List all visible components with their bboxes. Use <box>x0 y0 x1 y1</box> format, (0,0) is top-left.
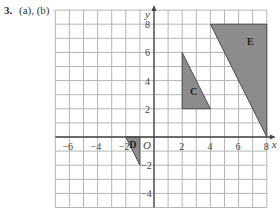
y-tick-label: 2 <box>145 104 150 115</box>
coordinate-grid: CED−6−4−224688642−2−4yxO <box>0 0 280 216</box>
x-tick-label: 8 <box>264 141 269 152</box>
y-axis-label: y <box>144 8 150 20</box>
shape-label: C <box>190 86 197 97</box>
x-tick-label: −4 <box>91 141 102 152</box>
x-tick-label: 2 <box>179 141 184 152</box>
y-tick-label: 4 <box>145 76 150 87</box>
x-tick-label: 4 <box>207 141 212 152</box>
y-tick-label: 6 <box>145 47 150 58</box>
x-tick-label: 6 <box>236 141 241 152</box>
x-tick-label: −2 <box>119 141 130 152</box>
shape-label: D <box>129 139 136 150</box>
y-axis-arrow-icon <box>152 5 157 11</box>
x-tick-label: −6 <box>62 141 73 152</box>
x-axis-label: x <box>271 138 277 150</box>
shape-label: E <box>247 36 254 47</box>
y-tick-label: 8 <box>145 19 150 30</box>
origin-label: O <box>143 139 151 151</box>
y-tick-label: −4 <box>141 188 152 199</box>
y-tick-label: −2 <box>141 160 152 171</box>
